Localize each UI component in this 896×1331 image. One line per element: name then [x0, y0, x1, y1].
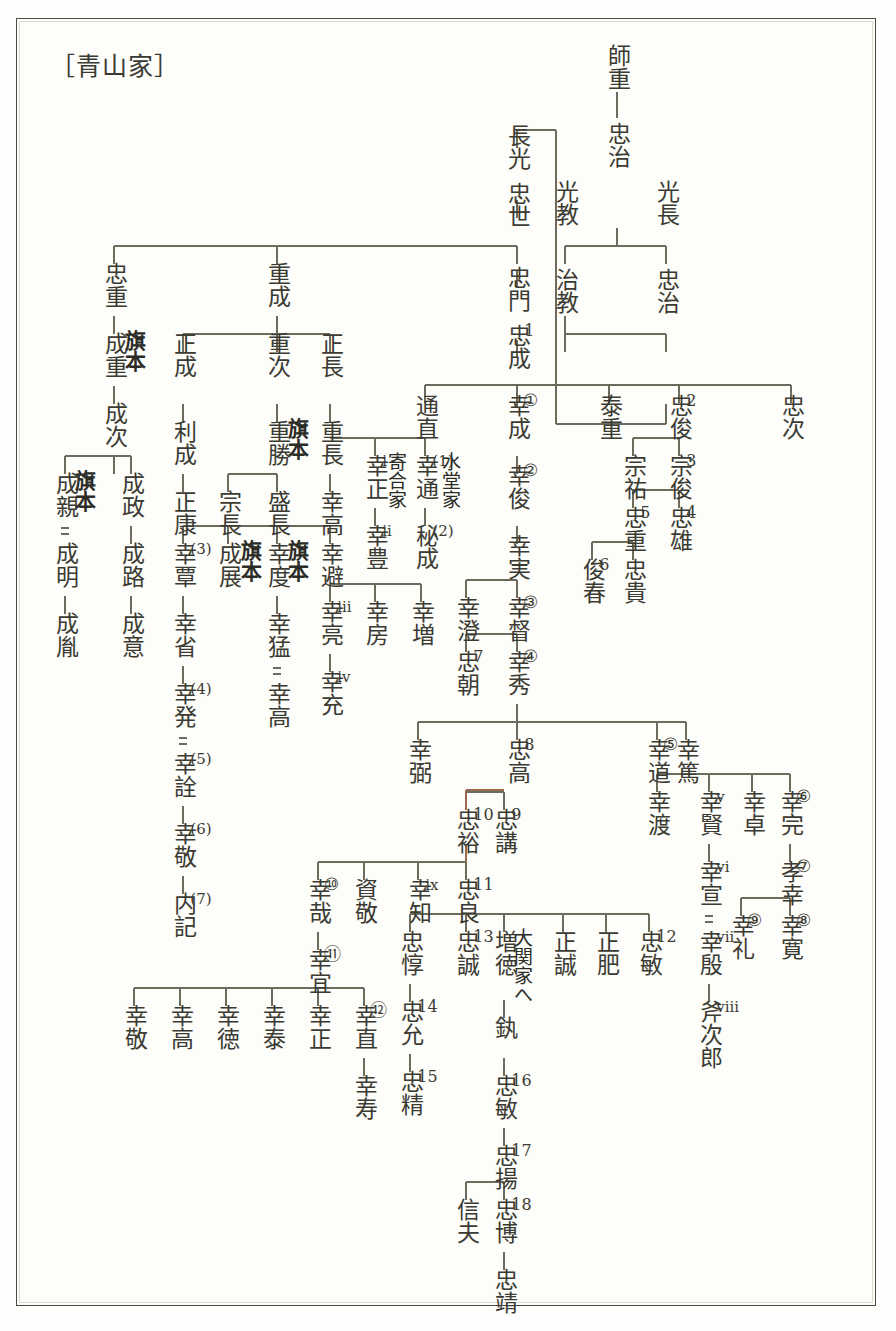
index-11: 11	[473, 877, 493, 893]
index-iii: iii	[337, 600, 351, 615]
index-2b: (2)	[432, 524, 453, 539]
node-harunori: 治教	[553, 268, 576, 314]
node-naritsura: 成展	[216, 542, 239, 588]
index-circ-1: ①	[523, 392, 538, 409]
index-13: 13	[473, 929, 493, 945]
index-circ-11: ⑪	[324, 946, 341, 963]
node-yasushige: 泰重	[597, 394, 620, 440]
node-tadao-4: 忠雄4	[667, 506, 690, 552]
index-circ-4: ④	[523, 648, 538, 665]
index-5b: 5	[640, 505, 650, 521]
index-3b: 3	[686, 453, 696, 469]
node-tadamasa-13: 忠誠13	[454, 930, 477, 976]
index-2c: 2	[686, 393, 696, 409]
node-shigenaga: 重長	[318, 420, 341, 466]
genealogy-page: ［青山家］ 師重 忠治 光教 光長 治教 忠治 長光 忠世 忠門 忠成1 忠重 …	[0, 0, 896, 1331]
index-circ-7: ⑦	[796, 858, 811, 875]
node-tadashige: 忠重	[102, 262, 125, 308]
node-yukitoshi-2: 幸俊②	[505, 464, 528, 510]
node-suki: 釻	[492, 1016, 515, 1039]
node-yukitada-3: 幸督③	[505, 596, 528, 642]
annotation-hatamoto-1: 旗本	[124, 330, 145, 372]
index-1: 1	[524, 323, 534, 339]
index-vi: vi	[716, 860, 729, 875]
node-narimasa: 成政	[119, 472, 142, 518]
node-yukimasa-i: 幸正i	[363, 454, 386, 500]
node-yukiaki-5: 幸詮(5)	[171, 752, 194, 798]
node-tadaharu: 忠治	[605, 122, 628, 168]
node-yukifusa: 幸房	[363, 600, 386, 646]
node-yukitaka-b2: 幸高	[168, 1004, 191, 1050]
index-4: (4)	[190, 682, 211, 697]
node-tadaatsu: 忠惇	[398, 930, 421, 976]
node-michinao: 通直	[413, 394, 436, 440]
node-takayuki-7: 孝幸⑦	[778, 860, 801, 906]
index-3: (3)	[190, 542, 211, 557]
node-narimichi: 成路	[119, 542, 142, 588]
annotation-suido: 水堂家	[440, 452, 459, 509]
node-yukitaka-6: 幸敬(6)	[171, 822, 194, 868]
node-morosige: 師重	[605, 44, 628, 90]
index-16: 16	[511, 1073, 531, 1089]
node-shigetsugu: 重次	[265, 332, 288, 378]
page-title: ［青山家］	[50, 46, 180, 82]
index-ii: ii	[382, 524, 392, 539]
node-sukeyoshi: 資敬	[352, 878, 375, 924]
node-tadayasu: 忠靖	[492, 1268, 515, 1314]
node-narikazu: 成胤	[53, 612, 76, 658]
annotation-hatamoto-2: 旗本	[74, 470, 95, 512]
node-yukiwatari: 幸渡	[645, 790, 668, 836]
node-yukimasu: 幸増	[409, 600, 432, 646]
node-yukitaka-top: 幸高	[318, 490, 341, 536]
node-yukitoshi-b: 幸寿	[352, 1074, 375, 1120]
index-iv: iv	[337, 670, 350, 685]
annotation-hatamoto-4: 旗本	[287, 540, 308, 582]
node-yukitan: 幸覃(3)	[171, 542, 194, 588]
node-yukitaka-2: 幸高	[265, 682, 288, 728]
node-tadatomo-7: 忠朝7	[454, 650, 477, 696]
node-tadatsugu-9: 忠講9	[492, 808, 515, 854]
node-tadakiyo-15: 忠精15	[398, 1070, 421, 1116]
annotation-hatamoto-5: 旗本	[240, 540, 261, 582]
index-ix: ix	[425, 878, 438, 893]
chart-canvas: ［青山家］ 師重 忠治 光教 光長 治教 忠治 長光 忠世 忠門 忠成1 忠重 …	[0, 0, 896, 1331]
node-tadayoshi-11: 忠良11	[454, 878, 477, 924]
index-12: 12	[656, 929, 676, 945]
node-yukitoyo-ii: 幸豊ii	[363, 524, 386, 570]
connector-lines	[0, 0, 896, 1331]
node-shigenari: 重成	[265, 262, 288, 308]
node-yukihide-4: 幸秀④	[505, 650, 528, 696]
index-circ-3: ③	[523, 594, 538, 611]
index-circ-12: ⑫	[370, 1002, 387, 1019]
node-yukinao-12: 幸直⑫	[352, 1004, 375, 1050]
index-6: (6)	[190, 822, 211, 837]
node-yukitaku: 幸卓	[740, 790, 763, 836]
index-10: 10	[473, 807, 493, 823]
node-yukisuke: 幸弼	[406, 738, 429, 784]
node-yukisake: 幸避	[318, 542, 341, 588]
node-yukiatsu: 幸篤	[674, 738, 697, 784]
index-7: (7)	[190, 892, 211, 907]
node-nobuo: 信夫	[454, 1198, 477, 1244]
node-yukiyoshi-vii: 幸殷vii	[697, 930, 720, 976]
node-tadashige-5: 忠重5	[621, 506, 644, 552]
node-tadaharu-2: 忠治	[654, 268, 677, 314]
node-yukitake: 幸猛	[265, 612, 288, 658]
annotation-yoriai: 寄合家	[386, 452, 405, 509]
node-yukisei: 幸省	[171, 612, 194, 658]
node-hidenari: 秘成(2)	[413, 524, 436, 570]
node-tadakado: 忠門	[505, 266, 528, 312]
node-tadatoshi-16: 忠敏16	[492, 1074, 515, 1120]
node-yukiyasu-b4: 幸泰	[260, 1004, 283, 1050]
index-4b: 4	[686, 505, 696, 521]
node-morinaga: 盛長	[265, 490, 288, 536]
index-5: (5)	[190, 752, 211, 767]
node-tadatoshi-12: 忠敏12	[637, 930, 660, 976]
node-yukiya-10: 幸哉⑩	[306, 878, 329, 924]
node-yukizumi: 幸澄	[454, 596, 477, 642]
node-yukihatsu: 幸発(4)	[171, 682, 194, 728]
node-yukimitsu-iv: 幸充iv	[318, 670, 341, 716]
node-tadahiro-18: 忠博18	[492, 1198, 515, 1244]
node-tadamitsu-14: 忠允14	[398, 1000, 421, 1046]
index-15: 15	[417, 1069, 437, 1085]
